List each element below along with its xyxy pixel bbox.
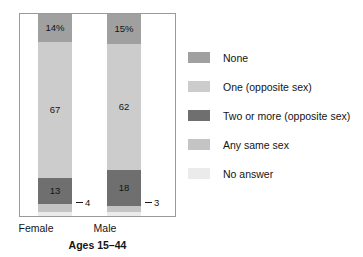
legend-label: None (223, 52, 248, 64)
legend-label: Any same sex (223, 139, 289, 151)
bar-segment-female-any-same-sex[interactable] (38, 204, 72, 212)
bar-segment-male-none[interactable]: 15% (107, 14, 141, 44)
x-axis-tick-female: Female (6, 222, 66, 234)
legend-item-any-same-sex[interactable]: Any same sex (188, 139, 350, 150)
chart-legend: None One (opposite sex) Two or more (opp… (188, 52, 350, 179)
bar-segment-female-two-or-more[interactable]: 13 (38, 178, 72, 204)
legend-item-none[interactable]: None (188, 52, 350, 63)
bar-segment-male-two-or-more[interactable]: 18 (107, 170, 141, 206)
stacked-bar-female[interactable]: 14% 67 13 (38, 14, 72, 216)
legend-swatch-icon (188, 110, 210, 121)
leader-value: 3 (154, 197, 159, 208)
bar-segment-label: 15% (114, 24, 133, 34)
x-axis-title: Ages 15–44 (19, 239, 176, 251)
legend-swatch-icon (188, 52, 210, 63)
leader-value: 4 (85, 197, 90, 208)
stacked-bar-male[interactable]: 15% 62 18 (107, 14, 141, 216)
x-axis-tick-male: Male (75, 222, 135, 234)
bar-segment-female-no-answer[interactable] (38, 212, 72, 216)
bar-segment-female-none[interactable]: 14% (38, 14, 72, 42)
leader-dash-icon (76, 202, 83, 203)
bar-segment-male-no-answer[interactable] (107, 212, 141, 216)
bar-segment-label: 14% (45, 23, 64, 33)
legend-swatch-icon (188, 81, 210, 92)
leader-dash-icon (145, 202, 152, 203)
leader-label-male-any-same-sex: 3 (145, 197, 159, 208)
chart-plot-area: 14% 67 13 15% 62 18 4 3 (19, 13, 176, 217)
bar-segment-male-one[interactable]: 62 (107, 44, 141, 169)
bar-segment-label: 18 (119, 183, 130, 193)
bar-segment-label: 67 (50, 105, 61, 115)
legend-swatch-icon (188, 168, 210, 179)
legend-label: No answer (223, 168, 273, 180)
legend-item-two-or-more-opposite-sex[interactable]: Two or more (opposite sex) (188, 110, 350, 121)
leader-label-female-any-same-sex: 4 (76, 197, 90, 208)
legend-item-no-answer[interactable]: No answer (188, 168, 350, 179)
bar-segment-female-one[interactable]: 67 (38, 42, 72, 177)
legend-label: One (opposite sex) (223, 81, 312, 93)
bar-segment-label: 62 (119, 102, 130, 112)
legend-swatch-icon (188, 139, 210, 150)
bar-segment-label: 13 (50, 186, 61, 196)
legend-item-one-opposite-sex[interactable]: One (opposite sex) (188, 81, 350, 92)
legend-label: Two or more (opposite sex) (223, 110, 350, 122)
